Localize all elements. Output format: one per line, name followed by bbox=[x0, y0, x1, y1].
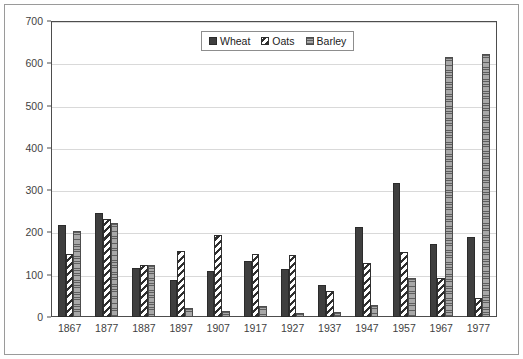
x-tick-label: 1937 bbox=[318, 322, 341, 334]
y-tick-label: 600 bbox=[25, 57, 43, 69]
y-tick-label: 0 bbox=[37, 311, 43, 323]
y-tick-label: 700 bbox=[25, 15, 43, 27]
y-tick-label: 300 bbox=[25, 184, 43, 196]
x-tick-label: 1867 bbox=[58, 322, 81, 334]
plot-area bbox=[51, 21, 497, 317]
x-tick-label: 1907 bbox=[207, 322, 230, 334]
x-tick-label: 1877 bbox=[95, 322, 118, 334]
y-tick-label: 200 bbox=[25, 226, 43, 238]
gridline bbox=[52, 149, 496, 150]
y-axis: 0100200300400500600700 bbox=[5, 5, 49, 335]
gridline bbox=[52, 107, 496, 108]
legend-item-wheat: Wheat bbox=[209, 35, 250, 47]
chart-container: 0100200300400500600700 18671877188718971… bbox=[4, 4, 519, 355]
x-tick-label: 1887 bbox=[132, 322, 155, 334]
gridline bbox=[52, 191, 496, 192]
x-tick-label: 1957 bbox=[392, 322, 415, 334]
x-tick-label: 1917 bbox=[244, 322, 267, 334]
legend-item-barley: Barley bbox=[306, 35, 347, 47]
gridline bbox=[52, 276, 496, 277]
x-tick-label: 1967 bbox=[430, 322, 453, 334]
legend-item-oats: Oats bbox=[261, 35, 294, 47]
legend-label-barley: Barley bbox=[317, 35, 347, 47]
chart-legend: Wheat Oats Barley bbox=[201, 31, 354, 51]
gridline bbox=[52, 233, 496, 234]
legend-swatch-wheat-icon bbox=[209, 37, 217, 45]
gridline bbox=[52, 22, 496, 23]
x-axis: 1867187718871897190719171927193719471957… bbox=[51, 320, 497, 342]
x-tick-label: 1977 bbox=[467, 322, 490, 334]
legend-label-wheat: Wheat bbox=[220, 35, 250, 47]
x-tick-label: 1897 bbox=[169, 322, 192, 334]
legend-label-oats: Oats bbox=[272, 35, 294, 47]
x-tick-label: 1927 bbox=[281, 322, 304, 334]
legend-swatch-barley-icon bbox=[306, 37, 314, 45]
x-tick-label: 1947 bbox=[355, 322, 378, 334]
y-tick-label: 500 bbox=[25, 100, 43, 112]
legend-swatch-oats-icon bbox=[261, 37, 269, 45]
y-tick-label: 100 bbox=[25, 269, 43, 281]
y-tick-label: 400 bbox=[25, 142, 43, 154]
gridline bbox=[52, 64, 496, 65]
